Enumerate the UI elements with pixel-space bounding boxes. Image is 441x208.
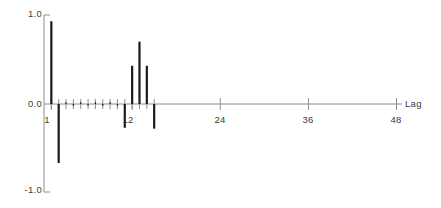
x-axis-tick-label-24: 24 (210, 114, 230, 125)
correlogram-chart: 1.0 0.0 -1.0 1 12 24 36 48 Lag (0, 0, 441, 208)
x-axis-title-lag: Lag (405, 98, 422, 109)
y-axis-label-top: 1.0 (12, 8, 42, 19)
x-axis-tick-label-48: 48 (386, 114, 406, 125)
chart-plot-area (0, 0, 441, 208)
x-axis-tick-label-1: 1 (37, 114, 57, 125)
y-axis-label-zero: 0.0 (12, 98, 42, 109)
x-axis-tick-label-36: 36 (298, 114, 318, 125)
x-axis-tick-label-12: 12 (118, 114, 138, 125)
y-axis-label-bottom: -1.0 (8, 184, 42, 195)
